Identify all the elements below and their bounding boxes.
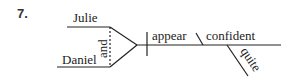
word-and: and — [95, 39, 110, 58]
fork-upper — [110, 27, 137, 45]
word-julie: Julie — [73, 10, 98, 25]
word-quite: quite — [238, 44, 265, 74]
word-confident: confident — [206, 28, 255, 43]
complement-slash — [196, 33, 203, 45]
fork-lower — [110, 45, 137, 67]
word-appear: appear — [152, 28, 187, 43]
word-daniel: Daniel — [62, 52, 97, 67]
sentence-diagram: Julie Daniel and appear confident quite — [0, 0, 295, 81]
